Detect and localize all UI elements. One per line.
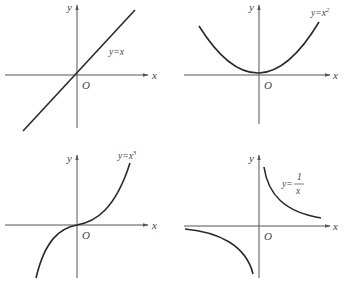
- curve-label: y=x3: [117, 149, 137, 161]
- panel-reciprocal: x y O y= 1 x: [184, 152, 338, 278]
- x-axis-label: x: [151, 69, 157, 81]
- curve-reciprocal-positive-branch: [264, 167, 321, 218]
- origin-label: O: [264, 230, 272, 242]
- curve-reciprocal-negative-branch: [185, 229, 253, 274]
- x-axis-label: x: [151, 219, 157, 231]
- panel-quadratic: x y O y=x2: [184, 1, 338, 124]
- origin-label: O: [82, 229, 90, 241]
- curve-label-prefix: y=: [281, 179, 293, 189]
- origin-label: O: [264, 79, 272, 91]
- curve-label: y=x: [108, 47, 125, 57]
- curve-label-denominator: x: [295, 186, 301, 196]
- y-axis-label: y: [248, 152, 254, 164]
- x-axis-label: x: [332, 69, 338, 81]
- panel-linear: x y O y=x: [5, 1, 157, 131]
- y-axis-label: y: [66, 1, 72, 13]
- panel-cubic: x y O y=x3: [5, 149, 157, 278]
- y-axis-label: y: [66, 152, 72, 164]
- curve-label: y= 1 x: [281, 172, 304, 196]
- x-axis-label: x: [332, 220, 338, 232]
- function-graphs-figure: x y O y=x x y O y=x2 x y O y=x3 x y O y=…: [0, 0, 344, 292]
- curve-y-equals-x-cubed: [36, 163, 130, 278]
- y-axis-label: y: [248, 1, 254, 13]
- origin-label: O: [82, 79, 90, 91]
- curve-y-equals-x: [23, 10, 135, 131]
- curve-label: y=x2: [310, 6, 330, 18]
- curve-label-numerator: 1: [297, 172, 302, 182]
- graphs-svg: x y O y=x x y O y=x2 x y O y=x3 x y O y=…: [0, 0, 344, 292]
